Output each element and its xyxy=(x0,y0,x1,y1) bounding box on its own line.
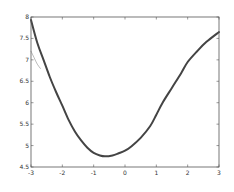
y-tick-label: 8 xyxy=(25,13,29,20)
line-chart: -3-2-10123 4.555.566.577.58 xyxy=(0,0,234,192)
x-tick-label: 3 xyxy=(217,169,221,176)
y-axis-tick-labels: 4.555.566.577.58 xyxy=(19,13,29,170)
y-tick-label: 6 xyxy=(25,99,29,106)
x-axis-tick-labels: -3-2-10123 xyxy=(28,169,221,176)
x-tick-label: -3 xyxy=(28,169,34,176)
x-tick-label: 0 xyxy=(123,169,127,176)
x-tick-label: -2 xyxy=(59,169,65,176)
x-tick-label: 2 xyxy=(186,169,190,176)
y-tick-label: 4.5 xyxy=(19,163,29,170)
plot-area xyxy=(31,17,219,167)
y-tick-label: 5.5 xyxy=(19,120,29,127)
y-tick-label: 7.5 xyxy=(19,34,29,41)
x-tick-label: 1 xyxy=(154,169,158,176)
y-tick-label: 5 xyxy=(25,142,29,149)
y-tick-label: 6.5 xyxy=(19,77,29,84)
y-tick-label: 7 xyxy=(25,56,29,63)
x-tick-label: -1 xyxy=(91,169,97,176)
